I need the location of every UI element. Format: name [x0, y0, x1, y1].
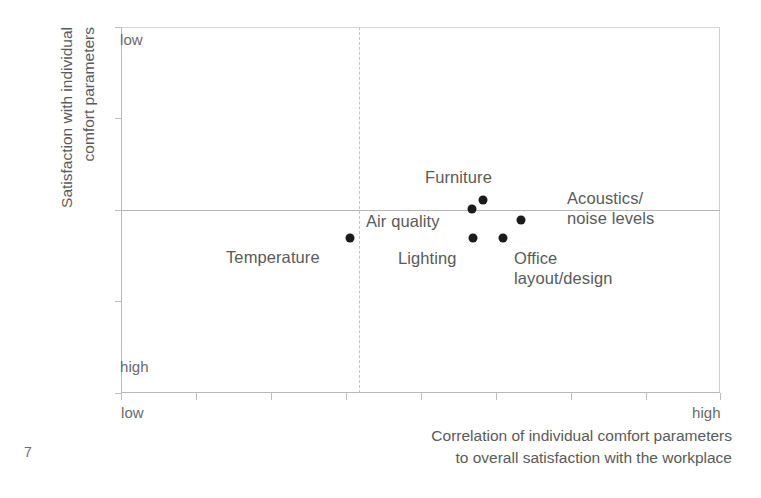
y-axis-tick: [115, 210, 122, 211]
data-point-temperature[interactable]: [346, 234, 355, 243]
x-axis-tick: [720, 393, 721, 400]
data-point-lighting[interactable]: [469, 234, 478, 243]
data-point-air-quality[interactable]: [468, 205, 477, 214]
x-axis-tick: [196, 393, 197, 400]
x-axis-tick: [271, 393, 272, 400]
y-axis-tick: [115, 301, 122, 302]
x-axis-low-label: low: [121, 404, 144, 421]
y-axis-high-label: high: [120, 358, 149, 375]
x-axis-tick: [121, 393, 122, 400]
point-label-lighting: Lighting: [398, 248, 457, 268]
x-axis-tick: [571, 393, 572, 400]
x-axis-tick: [496, 393, 497, 400]
point-label-furniture: Furniture: [425, 167, 492, 187]
x-axis-title: Correlation of individual comfort parame…: [300, 425, 732, 469]
point-label-office-layout: Office layout/design: [514, 248, 613, 288]
x-axis-high-label: high: [692, 404, 721, 421]
x-axis-tick: [646, 393, 647, 400]
data-point-office-layout[interactable]: [499, 234, 508, 243]
y-axis-tick: [115, 118, 122, 119]
data-point-acoustics[interactable]: [517, 216, 526, 225]
page-number: 7: [24, 444, 32, 460]
data-point-furniture[interactable]: [479, 196, 488, 205]
y-axis-tick: [115, 27, 122, 28]
point-label-air-quality: Air quality: [366, 211, 440, 231]
x-axis-tick: [421, 393, 422, 400]
chart-canvas: Temperature Air quality Furniture Lighti…: [0, 0, 761, 498]
y-axis-low-label: low: [120, 31, 143, 48]
point-label-acoustics: Acoustics/ noise levels: [567, 188, 654, 228]
point-label-temperature: Temperature: [226, 247, 320, 267]
x-axis-tick: [346, 393, 347, 400]
y-axis-title: Satisfaction with individual comfort par…: [56, 27, 112, 393]
